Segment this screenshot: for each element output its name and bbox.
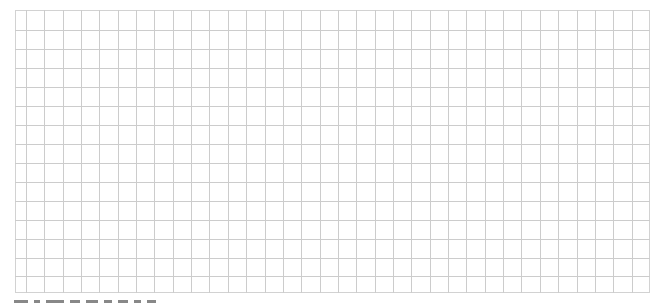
- caption-glyph-fragment: [46, 300, 64, 303]
- caption-glyph-fragment: [86, 300, 98, 303]
- caption-glyph-fragment: [147, 300, 156, 303]
- caption-glyph-fragment: [118, 300, 128, 303]
- cropped-caption: [14, 300, 162, 307]
- caption-glyph-fragment: [14, 300, 28, 303]
- grid-border: [16, 11, 650, 293]
- caption-glyph-fragment: [34, 300, 40, 303]
- caption-glyph-fragment: [134, 300, 141, 303]
- caption-glyph-fragment: [70, 300, 80, 303]
- caption-glyph-fragments: [14, 300, 162, 307]
- caption-glyph-fragment: [104, 300, 112, 303]
- grid-lines: [15, 10, 650, 293]
- ruled-grid: [15, 10, 650, 293]
